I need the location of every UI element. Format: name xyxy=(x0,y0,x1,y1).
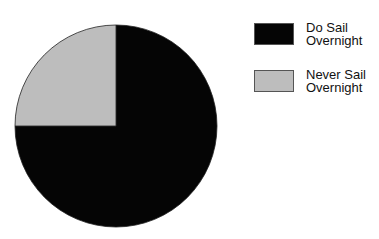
legend-swatch-never-sail xyxy=(254,70,294,92)
legend-label-line2: Overnight xyxy=(306,34,362,47)
legend-item-do-sail: Do Sail Overnight xyxy=(254,23,362,47)
pie-slice-never-sail xyxy=(15,25,116,126)
legend-label-line2: Overnight xyxy=(306,81,366,94)
legend-item-never-sail: Never Sail Overnight xyxy=(254,70,366,94)
legend-label-do-sail: Do Sail Overnight xyxy=(306,21,362,47)
legend-label-never-sail: Never Sail Overnight xyxy=(306,68,366,94)
legend-swatch-do-sail xyxy=(254,23,294,45)
